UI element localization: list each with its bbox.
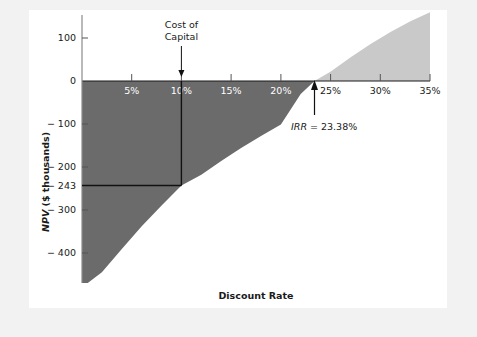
x-tick-label-20: 20% xyxy=(270,85,291,96)
x-tick-label-30: 30% xyxy=(370,85,391,96)
cost-of-capital-annotation: Cost of Capital xyxy=(165,19,199,77)
x-tick-label-15: 15% xyxy=(221,85,242,96)
npv-profile-chart: 100 0 − 100 − 200 − 243 − 300 − 400 5% 1… xyxy=(29,10,447,308)
y-tick-label-neg100: − 100 xyxy=(47,118,76,129)
y-tick-label-neg243: − 243 xyxy=(47,180,76,191)
npv-negative-fill xyxy=(82,81,315,287)
y-axis-title-rest: ($ thousands) xyxy=(40,132,51,210)
irr-label-italic: IRR xyxy=(291,121,307,132)
y-tick-label-neg400: − 400 xyxy=(47,247,76,258)
npv-negative-fill-region xyxy=(82,81,315,287)
svg-text:NPV ($ thousands): NPV ($ thousands) xyxy=(40,132,51,232)
y-axis-title-italic: NPV xyxy=(40,209,51,232)
figure-frame: 100 0 − 100 − 200 − 243 − 300 − 400 5% 1… xyxy=(0,0,477,337)
x-tick-label-25: 25% xyxy=(320,85,341,96)
npv-positive-fill xyxy=(315,12,431,81)
figure-canvas: 100 0 − 100 − 200 − 243 − 300 − 400 5% 1… xyxy=(29,10,447,308)
x-tick-label-5: 5% xyxy=(124,85,139,96)
irr-label-rest: = 23.38% xyxy=(307,121,357,132)
y-axis-title-group: NPV ($ thousands) xyxy=(40,132,51,232)
npv-positive-fill-region xyxy=(315,12,431,81)
x-tick-label-35: 35% xyxy=(419,85,440,96)
irr-label: IRR = 23.38% xyxy=(291,121,357,132)
y-tick-label-neg300: − 300 xyxy=(47,204,76,215)
cost-of-capital-label-line2: Capital xyxy=(165,31,198,42)
cost-of-capital-label-line1: Cost of xyxy=(165,19,199,30)
y-tick-label-100: 100 xyxy=(58,32,76,43)
y-tick-label-0: 0 xyxy=(70,75,76,86)
cost-of-capital-arrow-head xyxy=(178,70,184,77)
x-axis-title: Discount Rate xyxy=(218,290,293,301)
y-tick-label-neg200: − 200 xyxy=(47,161,76,172)
